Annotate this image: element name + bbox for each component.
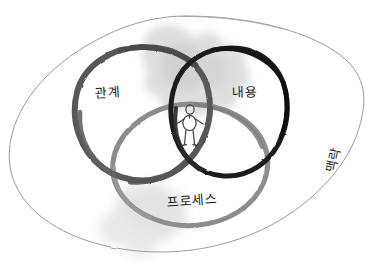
label-relationship: 관계 xyxy=(95,81,121,101)
label-process: 프로세스 xyxy=(166,188,217,210)
figure-leg-left xyxy=(185,130,187,144)
figure-foot-left xyxy=(182,145,187,146)
diagram-canvas: 관계 내용 프로세스 맥락 xyxy=(0,0,371,273)
label-content: 내용 xyxy=(232,82,257,102)
venn-diagram-graphic xyxy=(0,0,371,273)
figure-leg-right xyxy=(193,130,195,144)
